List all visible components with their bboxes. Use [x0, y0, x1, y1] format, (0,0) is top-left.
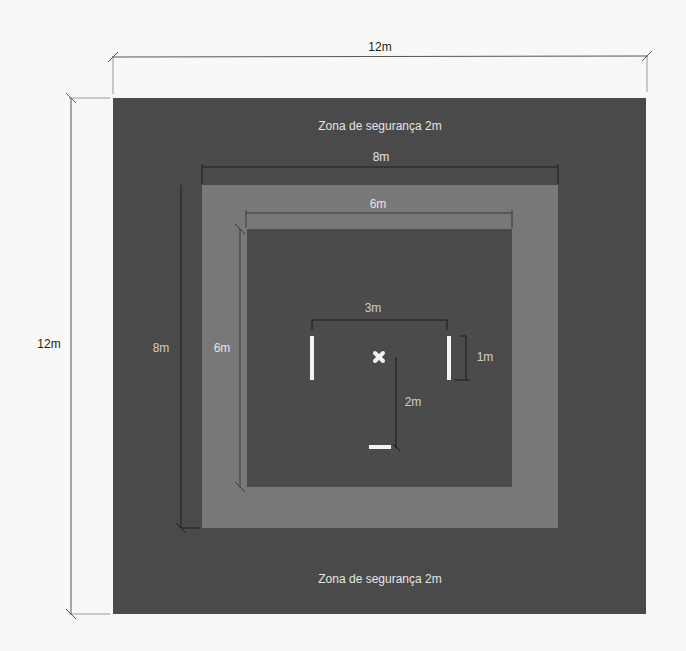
- inner-width-label: 6m: [370, 197, 387, 211]
- marker-length-label: 1m: [477, 350, 494, 364]
- safety-zone-bottom-label: Zona de segurança 2m: [318, 572, 441, 586]
- marker-spacing-label: 3m: [365, 301, 382, 315]
- center-distance-label: 2m: [405, 395, 422, 409]
- middle-height-label: 8m: [153, 341, 170, 355]
- middle-width-label: 8m: [373, 150, 390, 164]
- safety-zone-top-label: Zona de segurança 2m: [318, 119, 441, 133]
- outer-height-label: 12m: [37, 337, 60, 351]
- outer-width-label: 12m: [368, 40, 391, 54]
- inner-height-label: 6m: [214, 341, 231, 355]
- center-x-marker: [0, 0, 686, 651]
